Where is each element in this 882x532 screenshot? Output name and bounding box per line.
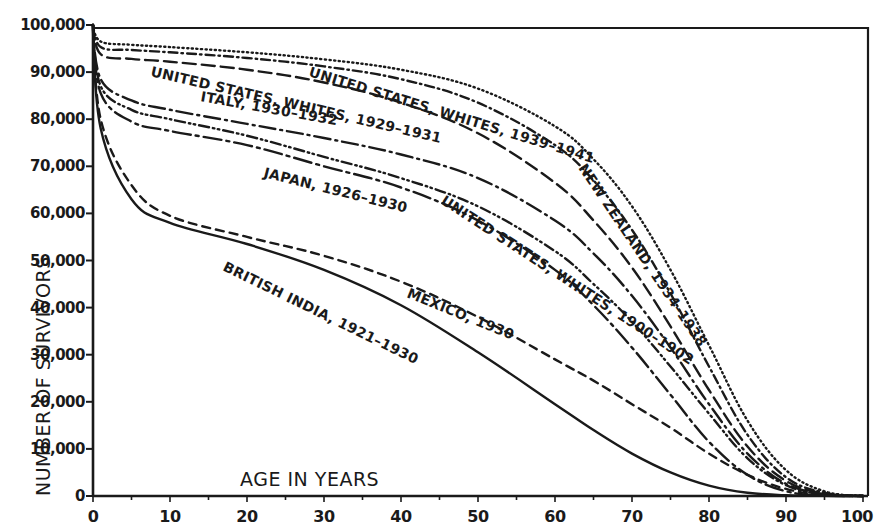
x-axis-ticks: 0102030405060708090100 (88, 496, 874, 526)
y-tick-label: 60,000 (30, 204, 85, 222)
x-axis-title: AGE IN YEARS (240, 468, 379, 490)
x-tick-label: 90 (775, 507, 797, 526)
curve-label: BRITISH INDIA, 1921–1930 (221, 258, 421, 367)
x-tick-label: 100 (841, 507, 873, 526)
x-tick-label: 60 (544, 507, 566, 526)
x-tick-label: 40 (390, 507, 412, 526)
x-tick-label: 80 (698, 507, 720, 526)
x-tick-label: 0 (88, 507, 99, 526)
y-tick-label: 80,000 (30, 110, 85, 128)
y-tick-label: 90,000 (30, 63, 85, 81)
curve-label: JAPAN, 1926–1930 (261, 164, 409, 215)
y-tick-label: 100,000 (20, 16, 85, 34)
survival-chart: 010,00020,00030,00040,00050,00060,00070,… (0, 0, 882, 532)
x-tick-label: 70 (621, 507, 643, 526)
y-tick-label: 0 (75, 487, 85, 505)
x-tick-label: 10 (159, 507, 181, 526)
x-tick-label: 30 (313, 507, 335, 526)
curve-label: MEXICO, 1930 (405, 285, 517, 343)
x-tick-label: 20 (236, 507, 258, 526)
y-tick-label: 70,000 (30, 157, 85, 175)
y-axis-title: NUMBER OF SURVIVORS (32, 256, 54, 496)
x-tick-label: 50 (467, 507, 489, 526)
